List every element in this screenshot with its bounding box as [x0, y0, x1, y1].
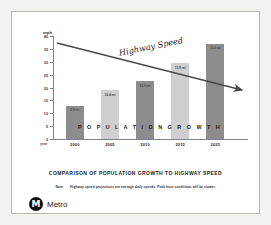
note-text: Highway speed projections are average da… — [70, 185, 215, 189]
y-axis-tick-label: 10 — [36, 111, 48, 116]
slide-canvas: mph 0510152025303540 9.0 mi10.4 mi12.0 m… — [0, 0, 271, 225]
x-axis-label: year — [40, 142, 47, 146]
metro-logo-text: Metro — [47, 200, 67, 209]
slide-frame: mph 0510152025303540 9.0 mi10.4 mi12.0 m… — [11, 11, 260, 214]
y-axis-tick-label: 5 — [36, 124, 48, 129]
note-label: Note: — [55, 185, 64, 189]
bar-value-label: 9.0 mi — [66, 108, 84, 112]
x-axis-tick-label: 2005 — [97, 142, 123, 147]
metro-logo: M Metro — [29, 197, 67, 211]
x-axis-tick-label: 2010 — [132, 142, 158, 147]
chart-title: COMPARISON OF POPULATION GROWTH TO HIGHW… — [12, 170, 259, 176]
y-axis-tick — [50, 139, 53, 140]
x-axis-line — [53, 139, 248, 140]
x-axis-tick-label: 2015 — [167, 142, 193, 147]
population-growth-overlay-label: P O P U L A T I O N G R O W T H — [78, 124, 222, 130]
chart-note: Note:Highway speed projections are avera… — [12, 185, 259, 189]
metro-logo-icon: M — [29, 197, 43, 211]
x-axis-tick-label: 2025 — [202, 142, 228, 147]
x-axis-tick-label: 2000 — [62, 142, 88, 147]
